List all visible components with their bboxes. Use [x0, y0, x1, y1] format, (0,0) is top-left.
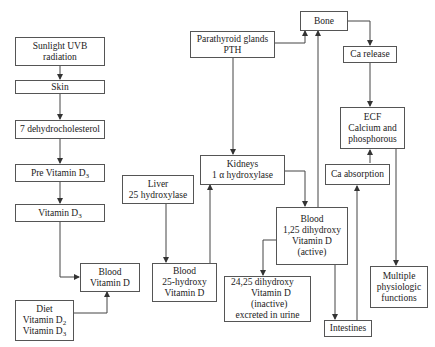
node-multiple-functions: Multiple physiologic functions: [370, 266, 428, 308]
node-label: Vitamin D: [165, 288, 205, 299]
node-blood-vitamin-d: Blood Vitamin D: [80, 263, 140, 292]
node-skin: Skin: [15, 80, 105, 94]
arrow-bone-to-release: [348, 21, 370, 45]
node-bone: Bone: [300, 11, 348, 31]
node-ca-absorption: Ca absorption: [325, 164, 390, 185]
arrow-kidneys-to-blood125: [285, 171, 305, 206]
node-parathyroid: Parathyroid glands PTH: [190, 31, 275, 58]
node-blood-125-dihydroxy: Blood 1,25 dihydroxy Vitamin D (active): [276, 207, 348, 265]
node-label: ECF: [364, 112, 381, 123]
node-2425-dihydroxy-inactive: 24,25 dihydroxy Vitamin D (inactive) exc…: [224, 276, 311, 322]
node-label: 25 hydroxylase: [129, 190, 187, 201]
node-label: Vitamin D3: [38, 208, 81, 219]
node-label: phosphorous: [348, 134, 397, 145]
arrow-vitd3-to-blood: [60, 222, 79, 277]
node-liver: Liver 25 hydroxylase: [122, 175, 194, 204]
node-label: Vitamin D: [225, 288, 291, 299]
node-label: PTH: [224, 45, 242, 56]
node-label: Blood: [300, 214, 323, 225]
node-label: 1 α hydroxylase: [212, 170, 273, 181]
node-7-dehydrocholesterol: 7 dehydrocholesterol: [15, 120, 105, 139]
node-label: (active): [297, 247, 326, 258]
node-label: 25-hydroxy: [162, 277, 206, 288]
node-vitamin-d3: Vitamin D3: [15, 204, 105, 222]
node-label: Parathyroid glands: [197, 34, 269, 45]
node-label: Vitamin D: [292, 236, 332, 247]
node-label: excreted in urine: [236, 310, 300, 321]
node-label: Kidneys: [227, 159, 259, 170]
node-label: Intestines: [330, 323, 366, 334]
node-label: 7 dehydrocholesterol: [20, 124, 100, 135]
node-label: Liver: [148, 179, 169, 190]
node-label: Sunlight UVB: [33, 41, 88, 52]
node-sunlight-uvb: Sunlight UVB radiation: [15, 37, 105, 66]
node-label: Multiple: [383, 271, 416, 282]
node-label: Vitamin D3: [23, 326, 66, 337]
node-label: Bone: [314, 16, 334, 27]
node-label: Skin: [51, 82, 68, 93]
node-label: 24,25 dihydroxy: [225, 277, 294, 288]
node-pre-vitamin-d3: Pre Vitamin D3: [15, 164, 105, 182]
node-ecf: ECF Calcium and phosphorous: [340, 107, 405, 149]
node-label: Blood: [173, 266, 196, 277]
node-label: (inactive): [225, 299, 287, 310]
node-label: Blood: [98, 267, 121, 278]
node-intestines: Intestines: [324, 320, 372, 337]
node-label: Ca absorption: [331, 169, 384, 180]
arrow-diet-to-blood: [74, 292, 107, 313]
node-label: physiologic: [377, 282, 421, 293]
node-label: 1,25 dihydroxy: [283, 225, 341, 236]
node-label: Ca release: [350, 49, 389, 60]
node-label: Diet: [36, 304, 52, 315]
node-label: Pre Vitamin D3: [31, 168, 89, 179]
node-label: radiation: [43, 52, 77, 63]
node-label: Vitamin D2: [23, 315, 66, 326]
node-kidneys: Kidneys 1 α hydroxylase: [200, 155, 285, 185]
node-ca-release: Ca release: [343, 46, 397, 63]
node-label: Calcium and: [348, 123, 396, 134]
node-label: Vitamin D: [90, 278, 130, 289]
node-label: functions: [381, 293, 416, 304]
node-diet: Diet Vitamin D2 Vitamin D3: [15, 300, 74, 341]
arrow-blood125-to-2425: [263, 240, 276, 275]
arrow-pth-to-bone: [275, 31, 305, 43]
node-blood-25-hydroxy: Blood 25-hydroxy Vitamin D: [152, 263, 217, 302]
